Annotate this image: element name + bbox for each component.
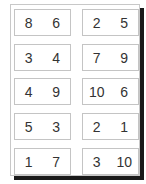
number: 2 bbox=[88, 119, 106, 135]
number: 3 bbox=[88, 154, 106, 170]
number: 8 bbox=[20, 15, 38, 31]
number: 7 bbox=[88, 50, 106, 66]
number: 1 bbox=[115, 119, 133, 135]
number-pair-box: 79 bbox=[82, 44, 139, 71]
number-pair-box: 86 bbox=[14, 9, 71, 36]
number: 7 bbox=[47, 154, 65, 170]
number: 4 bbox=[20, 84, 38, 100]
number: 3 bbox=[47, 119, 65, 135]
number-pair-box: 21 bbox=[82, 113, 139, 140]
number: 3 bbox=[20, 50, 38, 66]
number: 10 bbox=[115, 154, 133, 170]
number: 6 bbox=[115, 84, 133, 100]
number: 1 bbox=[20, 154, 38, 170]
number: 5 bbox=[20, 119, 38, 135]
number-pair-box: 310 bbox=[82, 148, 139, 175]
number: 4 bbox=[47, 50, 65, 66]
number-pair-box: 106 bbox=[82, 78, 139, 105]
number-pair-box: 25 bbox=[82, 9, 139, 36]
number-pair-box: 53 bbox=[14, 113, 71, 140]
number: 5 bbox=[115, 15, 133, 31]
number-pair-box: 49 bbox=[14, 78, 71, 105]
number: 6 bbox=[47, 15, 65, 31]
number: 2 bbox=[88, 15, 106, 31]
number-pair-box: 34 bbox=[14, 44, 71, 71]
number-card-sheet: 86 25 34 79 49 106 53 21 17 310 bbox=[10, 4, 140, 176]
number: 10 bbox=[88, 84, 106, 100]
number: 9 bbox=[115, 50, 133, 66]
number: 9 bbox=[47, 84, 65, 100]
number-pair-box: 17 bbox=[14, 148, 71, 175]
